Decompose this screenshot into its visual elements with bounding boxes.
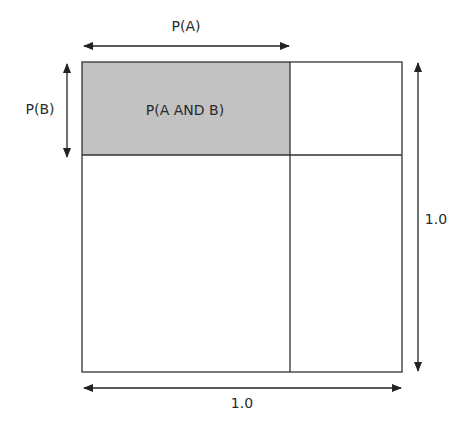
width-label: 1.0 <box>231 395 253 411</box>
probability-area-diagram: P(A) P(B) P(A AND B) 1.0 1.0 <box>0 0 476 431</box>
p-a-label: P(A) <box>172 18 201 34</box>
p-a-and-b-label: P(A AND B) <box>146 102 224 118</box>
height-label: 1.0 <box>425 211 447 227</box>
p-b-label: P(B) <box>26 101 55 117</box>
